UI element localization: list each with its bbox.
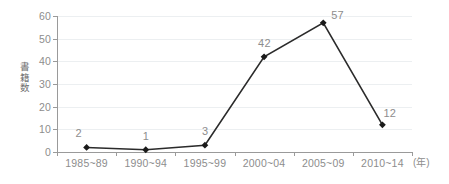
data-point-label: 3 — [202, 126, 208, 137]
data-point-label: 12 — [383, 108, 396, 119]
data-point-label: 2 — [76, 128, 82, 139]
data-point-marker — [83, 144, 90, 151]
data-point-label: 1 — [143, 131, 149, 142]
series-polyline — [87, 23, 383, 150]
data-point-label: 42 — [258, 38, 271, 49]
line-chart: 書 籍 数 0102030405060 1985~891990~941995~9… — [0, 0, 449, 184]
data-point-label: 57 — [331, 10, 344, 21]
data-series-line — [0, 0, 449, 184]
data-point-marker — [379, 121, 386, 128]
data-point-marker — [142, 146, 149, 153]
data-point-marker — [320, 19, 327, 26]
